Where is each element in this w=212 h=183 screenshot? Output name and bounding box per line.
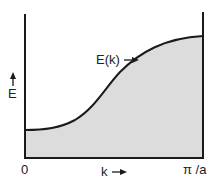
band-diagram — [0, 0, 212, 183]
x-tick-zero: 0 — [21, 163, 28, 176]
curve-label: E(k) — [96, 53, 120, 66]
k-axis-arrowhead-icon — [120, 169, 127, 175]
y-axis-label: E — [8, 87, 17, 100]
x-axis-label: k — [101, 165, 108, 178]
e-axis-arrowhead-icon — [10, 72, 16, 79]
x-tick-pi-over-a: π /a — [183, 163, 206, 176]
